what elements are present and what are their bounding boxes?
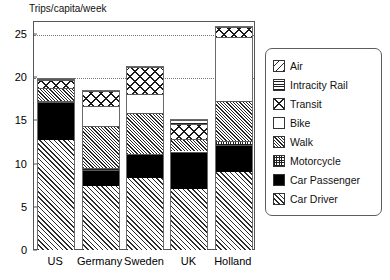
segment-germany-bike[interactable] (83, 106, 119, 126)
segment-sweden-transit[interactable] (127, 67, 163, 95)
y-tick-label-10: 10 (15, 158, 27, 169)
legend-item-motorcycle[interactable]: Motorcycle (273, 151, 375, 170)
segment-us-car-driver[interactable] (38, 140, 74, 250)
y-tick-mark-15 (33, 120, 37, 121)
y-tick-mark-0 (33, 250, 37, 251)
segment-germany-car-passenger[interactable] (83, 170, 119, 186)
legend-swatch-car-driver-icon (273, 193, 285, 205)
segment-holland-bike[interactable] (216, 37, 252, 101)
legend-label: Motorcycle (290, 155, 341, 167)
legend-item-bike[interactable]: Bike (273, 113, 375, 132)
x-tick-label-sweden: Sweden (124, 255, 164, 267)
segment-sweden-bike[interactable] (127, 94, 163, 113)
bar-sweden[interactable] (126, 66, 164, 249)
legend-item-car-passenger[interactable]: Car Passenger (273, 170, 375, 189)
legend-label: Air (290, 60, 303, 72)
legend-label: Intracity Rail (290, 79, 348, 91)
y-tick-label-25: 25 (15, 28, 27, 39)
bar-holland[interactable] (215, 26, 253, 249)
legend-label: Transit (290, 98, 322, 110)
y-axis: 0510152025 (0, 0, 33, 280)
legend-swatch-bike-icon (273, 117, 285, 129)
segment-uk-car-passenger[interactable] (171, 152, 207, 189)
legend-swatch-car-passenger-icon (273, 174, 285, 186)
x-tick-label-holland: Holland (214, 255, 251, 267)
segment-uk-transit[interactable] (171, 124, 207, 139)
y-tick-mark-20 (33, 77, 37, 78)
legend-label: Car Driver (290, 193, 338, 205)
segment-holland-motorcycle[interactable] (216, 141, 252, 144)
legend-item-intracity-rail[interactable]: Intracity Rail (273, 75, 375, 94)
legend-swatch-intracity-rail-icon (273, 79, 285, 91)
segment-us-car-passenger[interactable] (38, 102, 74, 140)
y-tick-mark-10 (33, 163, 37, 164)
legend-label: Car Passenger (290, 174, 360, 186)
legend-item-transit[interactable]: Transit (273, 94, 375, 113)
legend-swatch-motorcycle-icon (273, 155, 285, 167)
segment-us-walk[interactable] (38, 88, 74, 102)
segment-sweden-car-driver[interactable] (127, 178, 163, 250)
y-tick-mark-5 (33, 206, 37, 207)
segment-germany-walk[interactable] (83, 126, 119, 168)
y-tick-label-0: 0 (21, 245, 27, 256)
legend-label: Bike (290, 117, 310, 129)
legend: AirIntracity RailTransitBikeWalkMotorcyc… (265, 48, 382, 216)
segment-us-motorcycle[interactable] (38, 101, 74, 102)
x-tick-label-uk: UK (181, 255, 196, 267)
bar-germany[interactable] (82, 90, 120, 249)
chart-figure: Trips/capita/week 0510152025 USGermanySw… (0, 0, 390, 280)
segment-holland-car-driver[interactable] (216, 172, 252, 250)
bar-us[interactable] (37, 78, 75, 249)
segment-holland-car-passenger[interactable] (216, 145, 252, 173)
plot-area (33, 21, 255, 250)
legend-item-air[interactable]: Air (273, 56, 375, 75)
legend-label: Walk (290, 136, 313, 148)
segment-sweden-car-passenger[interactable] (127, 154, 163, 178)
segment-us-transit[interactable] (38, 80, 74, 88)
legend-swatch-walk-icon (273, 136, 285, 148)
segment-germany-motorcycle[interactable] (83, 168, 119, 170)
segment-us-intracity-rail[interactable] (38, 79, 74, 80)
segment-holland-transit[interactable] (216, 27, 252, 37)
segment-uk-walk[interactable] (171, 139, 207, 152)
y-tick-label-20: 20 (15, 72, 27, 83)
bar-uk[interactable] (170, 119, 208, 249)
y-tick-label-5: 5 (21, 201, 27, 212)
segment-germany-car-driver[interactable] (83, 186, 119, 250)
segment-uk-intracity-rail[interactable] (171, 120, 207, 123)
y-tick-label-15: 15 (15, 115, 27, 126)
y-tick-mark-25 (33, 33, 37, 34)
legend-item-car-driver[interactable]: Car Driver (273, 189, 375, 208)
x-tick-label-germany: Germany (77, 255, 122, 267)
legend-item-walk[interactable]: Walk (273, 132, 375, 151)
segment-uk-car-driver[interactable] (171, 189, 207, 250)
segment-sweden-walk[interactable] (127, 113, 163, 154)
legend-swatch-air-icon (273, 60, 285, 72)
legend-swatch-transit-icon (273, 98, 285, 110)
segment-holland-walk[interactable] (216, 101, 252, 141)
x-tick-label-us: US (48, 255, 63, 267)
segment-germany-transit[interactable] (83, 91, 119, 106)
chart-title: Trips/capita/week (29, 3, 106, 15)
